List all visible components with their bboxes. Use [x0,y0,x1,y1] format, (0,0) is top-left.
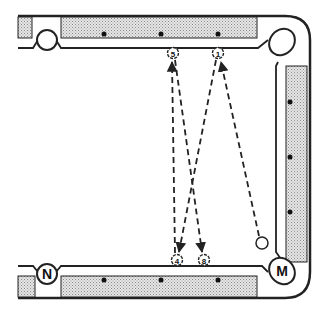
diamond [159,278,164,283]
ball-8: 8 [199,255,210,266]
path-5-to-8 [175,60,202,252]
shot-paths [172,60,259,253]
pocket-label-m: M [276,263,288,279]
diamond [288,210,293,215]
ball-5: 5 [168,48,179,59]
ball-1: 1 [213,48,224,59]
svg-text:5: 5 [171,50,176,59]
svg-text:1: 1 [216,50,221,59]
pocket-label-n: N [42,266,52,282]
cue-ball [256,237,268,249]
svg-text:8: 8 [202,257,207,266]
diamond [216,278,221,283]
diamond [288,155,293,160]
right-rail [276,62,307,262]
pool-table-diagram: N M 5 1 4 8 [0,0,324,312]
diamond [288,100,293,105]
diamond [102,32,107,37]
diamond [159,32,164,37]
pocket-bottom-left: N [37,264,57,284]
diamond [216,32,221,37]
table-frame [18,16,310,298]
pocket-top-left [37,30,57,50]
pocket-top-right [264,24,300,61]
path-4-to-5 [172,62,175,253]
diamond [102,278,107,283]
svg-text:4: 4 [175,257,180,266]
path-cue-to-1 [221,62,259,236]
ball-4: 4 [172,255,183,266]
